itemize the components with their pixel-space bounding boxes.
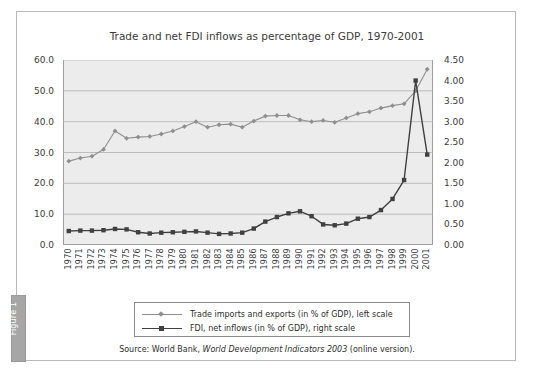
series-1 [66, 67, 429, 164]
data-point-marker [425, 67, 430, 72]
data-point-marker [159, 132, 164, 137]
x-axis-tick: 1977 [146, 248, 154, 270]
data-point-marker [217, 122, 222, 127]
x-axis-tick: 1991 [308, 248, 316, 270]
x-axis-tick: 1982 [204, 248, 212, 270]
data-point-marker [67, 229, 71, 233]
series-2 [67, 78, 430, 236]
data-point-marker [78, 156, 83, 161]
legend-label: FDI, net inflows (in % of GDP), right sc… [190, 324, 355, 333]
legend-label: Trade imports and exports (in % of GDP),… [190, 310, 393, 319]
x-axis-tick: 1992 [319, 248, 327, 270]
chart-canvas [63, 60, 433, 245]
data-point-marker [332, 120, 337, 125]
x-axis-tick: 1974 [111, 248, 119, 270]
data-point-marker [390, 197, 394, 201]
right-axis-tick: 4.50 [437, 56, 481, 65]
x-axis-tick: 1975 [123, 248, 131, 270]
data-point-marker [113, 227, 117, 231]
data-point-marker [402, 178, 406, 182]
x-axis-tick: 1981 [192, 248, 200, 270]
right-axis-tick: 3.50 [437, 97, 481, 106]
x-axis-tick: 1970 [65, 248, 73, 270]
x-axis-tick: 2000 [412, 248, 420, 270]
figure-number-tab: Figure 1 [11, 295, 26, 362]
x-axis-tick: 1985 [238, 248, 246, 270]
figure-frame: Trade and net FDI inflows as percentage … [16, 11, 516, 361]
left-axis-tick: 30.0 [15, 148, 59, 157]
data-point-marker [252, 226, 256, 230]
data-point-marker [182, 230, 186, 234]
x-axis-tick: 2001 [423, 248, 431, 270]
chart-title: Trade and net FDI inflows as percentage … [17, 30, 517, 42]
x-axis-tick: 1976 [134, 248, 142, 270]
x-axis-tick: 1983 [215, 248, 223, 270]
data-point-marker [147, 134, 152, 139]
data-point-marker [78, 228, 82, 232]
data-point-marker [217, 232, 221, 236]
x-axis-tick: 1994 [342, 248, 350, 270]
x-axis-tick: 1984 [227, 248, 235, 270]
series-line [69, 69, 427, 161]
right-axis-tick: 0.50 [437, 220, 481, 229]
right-axis-tick: 4.00 [437, 76, 481, 85]
x-axis-tick: 1993 [331, 248, 339, 270]
data-point-marker [425, 152, 429, 156]
chart-legend: Trade imports and exports (in % of GDP),… [134, 302, 410, 337]
x-axis-tick: 1986 [250, 248, 258, 270]
data-point-marker [286, 113, 291, 118]
left-axis-tick: 0.0 [15, 241, 59, 250]
x-axis-tick: 1987 [261, 248, 269, 270]
data-point-marker [66, 159, 71, 164]
legend-item: Trade imports and exports (in % of GDP),… [135, 308, 409, 320]
data-point-marker [263, 219, 267, 223]
data-point-marker [170, 129, 175, 134]
figure-number-label: Figure 1 [9, 285, 18, 352]
data-point-marker [90, 154, 95, 159]
left-axis-tick: 40.0 [15, 117, 59, 126]
left-axis-labels: 0.010.020.030.040.050.060.0 [15, 60, 59, 245]
x-axis-tick: 1989 [284, 248, 292, 270]
data-point-marker [240, 230, 244, 234]
right-axis-labels: 0.000.501.001.502.002.503.003.504.004.50 [437, 60, 481, 245]
right-axis-tick: 0.00 [437, 241, 481, 250]
source-title: World Development Indicators 2003 [203, 345, 348, 354]
x-axis-tick: 1999 [400, 248, 408, 270]
data-point-marker [356, 216, 360, 220]
series-line [69, 81, 427, 234]
x-axis-tick: 1979 [169, 248, 177, 270]
data-point-marker [309, 214, 313, 218]
data-point-marker [298, 209, 302, 213]
source-note: Source: World Bank, World Development In… [17, 345, 517, 354]
x-axis-tick: 1996 [365, 248, 373, 270]
data-point-marker [182, 124, 187, 129]
left-axis-tick: 20.0 [15, 179, 59, 188]
data-point-marker [228, 122, 233, 127]
data-point-marker [124, 227, 128, 231]
right-axis-tick: 1.00 [437, 199, 481, 208]
x-axis-tick: 1995 [354, 248, 362, 270]
data-point-marker [390, 103, 395, 108]
x-axis-tick: 1978 [157, 248, 165, 270]
data-point-marker [321, 222, 325, 226]
right-axis-tick: 2.00 [437, 158, 481, 167]
source-prefix: Source: World Bank, [119, 345, 202, 354]
data-point-marker [240, 125, 245, 130]
data-point-marker [159, 230, 163, 234]
right-axis-tick: 3.00 [437, 117, 481, 126]
legend-item: FDI, net inflows (in % of GDP), right sc… [135, 322, 409, 334]
data-point-marker [367, 215, 371, 219]
data-point-marker [136, 135, 141, 140]
data-point-marker [275, 113, 280, 118]
x-axis-tick: 1990 [296, 248, 304, 270]
legend-diamond-icon [140, 309, 184, 320]
left-axis-tick: 60.0 [15, 56, 59, 65]
x-axis-tick: 1973 [99, 248, 107, 270]
data-point-marker [333, 223, 337, 227]
data-point-marker [171, 230, 175, 234]
x-axis-tick: 1997 [377, 248, 385, 270]
x-axis-tick: 1972 [88, 248, 96, 270]
data-point-marker [321, 118, 326, 123]
source-suffix: (online version). [347, 345, 415, 354]
data-point-marker [379, 208, 383, 212]
